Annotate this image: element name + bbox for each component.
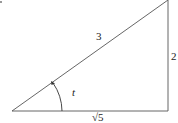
adjacent-label: √5 [92,111,104,123]
hypotenuse-label: 3 [96,30,102,42]
opposite-label: 2 [171,50,177,62]
triangle-diagram: 3 2 √5 t [0,0,178,123]
corner-mark [0,1,2,3]
